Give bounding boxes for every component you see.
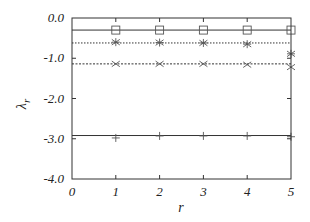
y-axis-label: λr [14, 98, 32, 110]
y-tick-label: -2.0 [43, 91, 64, 106]
y-axis-label-symbol: λ [14, 103, 29, 110]
plus-marker [156, 132, 164, 140]
y-tick-label: -4.0 [43, 171, 64, 186]
x-tick-label: 3 [199, 184, 207, 199]
x-tick-label: 2 [156, 184, 163, 199]
reference-lines [72, 30, 291, 135]
y-tick-label: -3.0 [43, 131, 64, 146]
star-marker [156, 39, 164, 47]
x-tick-labels: 012345 [69, 184, 295, 199]
chart: 012345 0.0-1.0-2.0-3.0-4.0 r λr [0, 0, 310, 222]
star-marker [112, 38, 120, 46]
y-tick-label: 0.0 [48, 10, 65, 25]
x-axis-label: r [178, 200, 184, 215]
data-markers [112, 26, 295, 142]
x-tick-label: 5 [288, 184, 295, 199]
plus-marker [199, 132, 207, 140]
y-axis-label-subscript: r [20, 98, 32, 103]
x-tick-label: 1 [113, 184, 120, 199]
x-tick-label: 0 [69, 184, 76, 199]
y-axis-label-main: λr [14, 98, 32, 110]
star-marker [199, 39, 207, 47]
axis-ticks [72, 18, 291, 179]
y-tick-labels: 0.0-1.0-2.0-3.0-4.0 [43, 10, 64, 186]
x-tick-label: 4 [244, 184, 251, 199]
star-marker [243, 40, 251, 48]
y-tick-label: -1.0 [43, 50, 64, 65]
cross-marker [243, 62, 251, 68]
plot-frame [72, 18, 291, 179]
plus-marker [243, 132, 251, 140]
